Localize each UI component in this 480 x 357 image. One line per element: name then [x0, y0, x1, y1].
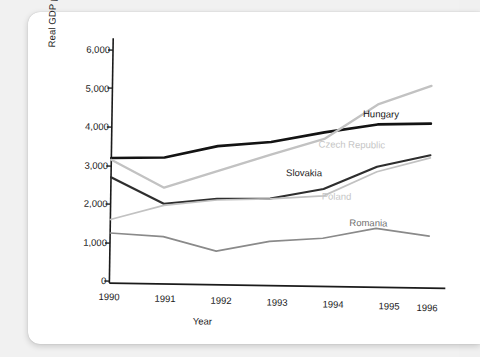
x-axis-title: Year — [193, 315, 212, 326]
x-tick-1996: 1996 — [407, 302, 447, 314]
series-label-poland: Poland — [322, 190, 352, 201]
series-line-czech-republic — [111, 81, 432, 192]
x-tick-1991: 1991 — [145, 293, 185, 305]
x-tick-1993: 1993 — [257, 296, 297, 308]
x-tick-1992: 1992 — [201, 295, 241, 307]
x-axis-spine — [109, 283, 445, 288]
series-label-romania: Romania — [349, 217, 387, 229]
series-label-slovakia: Slovakia — [286, 167, 322, 179]
series-line-romania — [110, 224, 429, 254]
x-tick-1990: 1990 — [89, 291, 129, 303]
series-label-hungary: Hungary — [363, 108, 399, 120]
x-tick-1994: 1994 — [313, 298, 353, 310]
x-tick-1995: 1995 — [369, 300, 409, 312]
series-line-poland — [110, 153, 430, 225]
series-label-czech-republic: Czech Republic — [318, 138, 385, 150]
series-layer — [110, 81, 432, 255]
line-chart: Real GDP per capita (U.S. dollars) 6,000… — [0, 0, 462, 357]
